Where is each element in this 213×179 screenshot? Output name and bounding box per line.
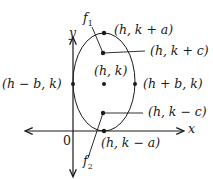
focus-bottom-point — [101, 111, 105, 115]
x-axis-label: x — [188, 123, 195, 136]
bottom-vertex-label: (h, k − a) — [101, 137, 160, 150]
bottom-vertex-point — [102, 129, 106, 133]
focus-top-leader-line — [103, 51, 145, 53]
center-label: (h, k) — [94, 65, 127, 78]
right-covertex-label: (h + b, k) — [143, 78, 203, 91]
focus-top-point — [101, 51, 105, 55]
left-covertex-label: (h − b, k) — [2, 78, 62, 91]
top-vertex-label: (h, k + a) — [114, 24, 173, 37]
y-axis-label: y — [69, 27, 76, 40]
f1-leader-line — [92, 27, 103, 53]
right-covertex-point — [133, 82, 137, 86]
left-covertex-point — [71, 82, 75, 86]
f1-label: f1 — [83, 12, 93, 28]
focus-top-label: (h, k + c) — [150, 45, 209, 58]
f2-label: f2 — [83, 155, 93, 171]
origin-label: 0 — [63, 135, 71, 148]
top-vertex-point — [102, 31, 106, 35]
ellipse-diagram: f1 (h, k + a) y (h, k + c) (h, k) (h − b… — [0, 0, 213, 179]
center-point — [102, 82, 106, 86]
focus-bottom-label: (h, k − c) — [148, 106, 207, 119]
